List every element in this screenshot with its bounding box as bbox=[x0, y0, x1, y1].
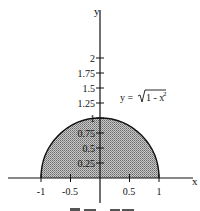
y-tick-label: 1.25 bbox=[78, 98, 96, 109]
y-tick-label: 0.75 bbox=[78, 128, 96, 139]
x-tick-label: 1 bbox=[157, 186, 162, 197]
x-tick-label: 0.5 bbox=[123, 186, 136, 197]
y-tick-label: 1 bbox=[90, 113, 95, 124]
y-tick-label: 1.75 bbox=[78, 68, 96, 79]
x-axis-label: x bbox=[192, 175, 198, 187]
y-tick-label: 0.25 bbox=[78, 158, 96, 169]
x-tick-label: -1 bbox=[37, 186, 45, 197]
y-tick-label: 2 bbox=[90, 53, 95, 64]
y-tick-label: 1.5 bbox=[83, 83, 96, 94]
y-axis-label: y bbox=[94, 5, 100, 17]
caption-partial bbox=[70, 208, 134, 211]
chart: -1 -0.5 0.5 1 0.25 0.5 0.75 1 1.25 1.5 1… bbox=[0, 0, 200, 211]
y-tick-label: 0.5 bbox=[83, 143, 96, 154]
x-tick-label: -0.5 bbox=[62, 186, 78, 197]
equation-exponent: 2 bbox=[163, 90, 167, 98]
equation-radicand: 1 - x bbox=[146, 92, 164, 103]
equation-lhs: y = bbox=[120, 92, 134, 103]
equation-label: y = 1 - x 2 bbox=[120, 90, 167, 103]
